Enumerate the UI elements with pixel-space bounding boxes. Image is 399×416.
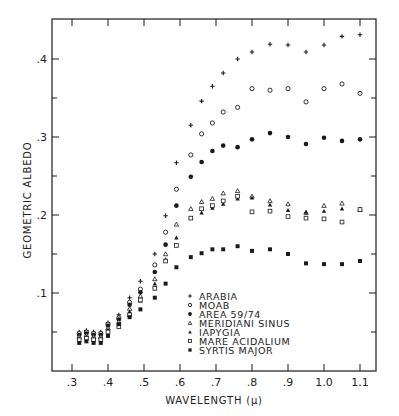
open-circle-marker <box>236 105 240 109</box>
legend-item: SYRTIS MAJOR <box>188 345 273 356</box>
x-axis-title: WAVELENGTH (μ) <box>165 395 263 406</box>
open-circle-marker <box>268 88 272 92</box>
open-triangle-marker <box>268 199 272 203</box>
filled-circle-marker <box>188 174 193 179</box>
filled-circle-marker <box>235 145 240 150</box>
plus-marker <box>268 42 272 46</box>
series-arabia <box>77 33 362 335</box>
x-tick-label: .4 <box>103 376 114 389</box>
legend: ARABIAMOABAREA 59/74MERIDIANI SINUSIAPYG… <box>188 291 290 356</box>
filled-circle-marker <box>188 312 192 316</box>
filled-square-marker <box>304 261 308 265</box>
x-tick-label: .6 <box>175 376 186 389</box>
y-axis-title: GEOMETRIC ALBEDO <box>22 141 33 258</box>
filled-square-marker <box>358 259 362 263</box>
open-square-marker <box>188 339 191 342</box>
filled-square-marker <box>189 255 193 259</box>
filled-square-marker <box>84 339 88 343</box>
filled-triangle-marker <box>286 208 290 212</box>
open-square-marker <box>221 199 225 203</box>
open-circle-marker <box>250 87 254 91</box>
filled-triangle-marker <box>268 203 272 207</box>
open-circle-marker <box>340 82 344 86</box>
x-tick-label: .7 <box>211 376 222 389</box>
plus-marker <box>235 57 239 61</box>
open-circle-marker <box>153 263 157 267</box>
open-triangle-marker <box>138 294 142 298</box>
open-circle-marker <box>200 132 204 136</box>
filled-circle-marker <box>163 242 168 247</box>
x-tick-label: 1.0 <box>315 376 333 389</box>
filled-circle-marker <box>340 139 345 144</box>
open-square-marker <box>175 244 179 248</box>
filled-square-marker <box>117 322 121 326</box>
filled-square-marker <box>200 251 204 255</box>
open-triangle-marker <box>189 207 193 211</box>
open-circle-marker <box>286 87 290 91</box>
open-square-marker <box>250 210 254 214</box>
filled-circle-marker <box>286 135 291 140</box>
open-square-marker <box>211 204 215 208</box>
open-triangle-marker <box>163 252 167 256</box>
open-triangle-marker <box>221 191 225 195</box>
open-square-marker <box>164 259 168 263</box>
y-tick-label: .3 <box>37 131 48 144</box>
open-circle-marker <box>221 110 225 114</box>
filled-square-marker <box>322 262 326 266</box>
open-circle-marker <box>304 100 308 104</box>
open-square-marker <box>340 220 344 224</box>
open-circle-marker <box>189 153 193 157</box>
open-square-marker <box>268 209 272 213</box>
plus-marker <box>189 123 193 127</box>
filled-square-marker <box>138 307 142 311</box>
filled-circle-marker <box>152 270 157 275</box>
legend-label: SYRTIS MAJOR <box>199 345 273 356</box>
open-triangle-marker <box>153 277 157 281</box>
filled-square-marker <box>188 348 191 351</box>
filled-square-marker <box>174 265 178 269</box>
filled-triangle-marker <box>340 207 344 211</box>
open-square-marker <box>153 286 157 290</box>
open-circle-marker <box>322 87 326 91</box>
filled-square-marker <box>92 341 96 345</box>
x-tick-label: .3 <box>67 376 78 389</box>
filled-square-marker <box>77 341 81 345</box>
plus-marker <box>304 50 308 54</box>
filled-square-marker <box>210 247 214 251</box>
plus-marker <box>127 295 131 299</box>
albedo-chart: .3.4.5.6.7.8.91.01.1 .1.2.3.4 ARABIAMOAB… <box>0 0 399 416</box>
filled-triangle-marker <box>199 210 203 214</box>
x-tick-label: .9 <box>283 376 294 389</box>
y-tick-label: .4 <box>37 53 48 66</box>
filled-triangle-marker <box>304 210 308 214</box>
filled-triangle-marker <box>174 235 178 239</box>
filled-circle-marker <box>358 137 363 142</box>
plus-marker <box>340 34 344 38</box>
filled-circle-marker <box>174 203 179 208</box>
filled-triangle-marker <box>153 281 157 285</box>
open-circle-marker <box>174 187 178 191</box>
open-triangle-marker <box>210 196 214 200</box>
open-triangle-marker <box>322 203 326 207</box>
filled-square-marker <box>221 247 225 251</box>
filled-square-marker <box>268 247 272 251</box>
open-square-marker <box>189 216 193 220</box>
open-square-marker <box>358 208 362 212</box>
filled-circle-marker <box>210 149 215 154</box>
y-tick-label: .2 <box>37 209 48 222</box>
plus-marker <box>174 161 178 165</box>
open-square-marker <box>200 207 204 211</box>
open-triangle-marker <box>188 321 192 324</box>
plus-marker <box>138 279 142 283</box>
filled-square-marker <box>99 341 103 345</box>
open-square-marker <box>304 216 308 220</box>
open-circle-marker <box>164 230 168 234</box>
plus-marker <box>286 43 290 47</box>
filled-square-marker <box>250 249 254 253</box>
plus-marker <box>153 252 157 256</box>
filled-square-marker <box>340 262 344 266</box>
x-tick-label: 1.1 <box>351 376 369 389</box>
open-triangle-marker <box>340 201 344 205</box>
open-circle-marker <box>358 91 362 95</box>
open-square-marker <box>236 194 240 198</box>
